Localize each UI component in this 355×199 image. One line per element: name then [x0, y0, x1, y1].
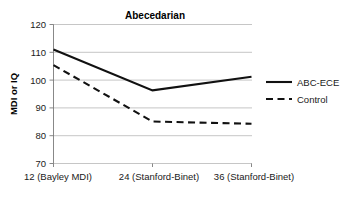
legend-label-abc-ece: ABC-ECE — [297, 77, 339, 88]
x-tick-label-12: 12 (Bayley MDI) — [24, 171, 92, 182]
chart-container: Abecedarian 120 110 100 90 80 — [0, 0, 355, 199]
y-axis-title: MDI or IQ — [8, 73, 19, 115]
y-tick-label-110: 110 — [31, 47, 46, 58]
abecedarian-line-chart: Abecedarian 120 110 100 90 80 — [0, 0, 355, 199]
legend-label-control: Control — [297, 94, 328, 105]
y-tick-label-70: 70 — [35, 158, 46, 169]
x-tick-label-36: 36 (Stanford-Binet) — [214, 171, 294, 182]
y-tick-label-100: 100 — [30, 75, 46, 86]
chart-title: Abecedarian — [125, 10, 185, 21]
y-tick-label-120: 120 — [30, 19, 46, 30]
y-tick-label-90: 90 — [35, 102, 46, 113]
y-tick-label-80: 80 — [35, 130, 46, 141]
x-tick-label-24: 24 (Stanford-Binet) — [119, 171, 199, 182]
x-tick-labels: 12 (Bayley MDI) 24 (Stanford-Binet) 36 (… — [24, 171, 294, 182]
